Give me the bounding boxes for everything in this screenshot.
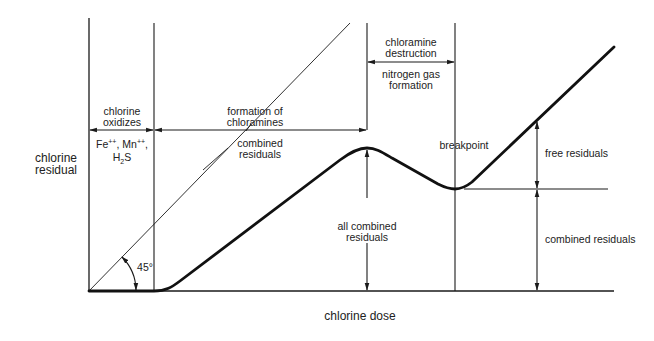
y-axis-label-line2: residual [30,164,82,176]
y-axis-label: chlorine residual [30,152,82,176]
zone2-title: formation of chloramines [210,106,300,128]
zone1-species: Fe++, Mn++, H2S [90,139,154,163]
all-combined-label: all combined residuals [330,221,404,243]
x-axis-label: chlorine dose [300,310,420,322]
zone2-subtitle: combined residuals [225,138,295,160]
zone1-species-line1: Fe++, Mn++, [90,139,154,150]
zone1-species-line2: H2S [90,152,154,163]
zone1-title-line2: oxidizes [92,117,152,128]
zone3-subtitle: nitrogen gas formation [370,69,452,91]
breakpoint-label: breakpoint [432,140,496,151]
free-residuals-label: free residuals [545,148,615,159]
zone2-title-line2: chloramines [210,117,300,128]
zone2-subtitle-line2: residuals [225,149,295,160]
zone1-title: chlorine oxidizes [92,106,152,128]
zone3-title-line2: destruction [370,48,452,59]
all-combined-label-line2: residuals [330,232,404,243]
breakpoint-chlorination-diagram [0,0,654,341]
residual-curve [89,47,614,291]
angle-label: 45° [133,262,157,273]
zone3-title: chloramine destruction [370,37,452,59]
zone3-subtitle-line2: formation [370,80,452,91]
combined-residuals-label: combined residuals [545,234,645,245]
